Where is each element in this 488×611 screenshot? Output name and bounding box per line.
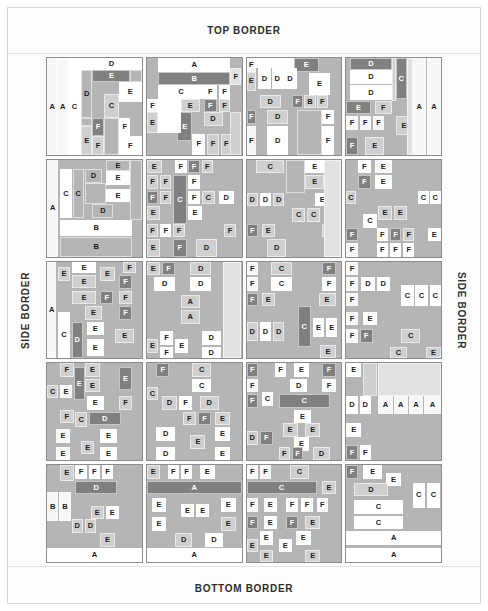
mosaic-cell-f: F — [160, 347, 173, 359]
mosaic-cell-blank — [104, 118, 119, 155]
mosaic-cell-f: F — [346, 116, 357, 130]
mosaic-cell-label: F — [192, 163, 197, 171]
mosaic-cell-label: C — [279, 484, 284, 492]
mosaic-cell-label: F — [150, 194, 155, 202]
mosaic-cell-label: E — [123, 375, 128, 383]
mosaic-cell-f: F — [204, 85, 217, 99]
mosaic-cell-f: F — [175, 160, 186, 174]
mosaic-cell-c: C — [271, 277, 292, 291]
mosaic-cell-label: A — [431, 103, 436, 111]
mosaic-cell-c: C — [396, 58, 407, 99]
mosaic-cell-d: D — [258, 68, 271, 89]
mosaic-cell-f: F — [147, 191, 158, 205]
mosaic-cell-label: E — [329, 324, 334, 332]
mosaic-cell-f: F — [375, 101, 392, 115]
mosaic-cell-label: E — [351, 366, 356, 374]
mosaic-cell-e: E — [346, 101, 371, 115]
mosaic-cell-label: D — [204, 244, 209, 252]
mosaic-cell-f: F — [247, 516, 258, 530]
mosaic-cell-f: F — [75, 465, 86, 479]
mosaic-cell-f: F — [360, 329, 373, 343]
mosaic-cell-label: F — [150, 102, 155, 110]
mosaic-cell-label: F — [164, 349, 169, 357]
mosaic-panel: FFCCEFEFFFFEFEEEEEEE — [246, 464, 343, 563]
mosaic-cell-label: F — [163, 227, 168, 235]
mosaic-cell-label: E — [93, 344, 98, 352]
bottom-border-strip: BOTTOM BORDER — [8, 566, 480, 610]
mosaic-cell-blank — [297, 110, 323, 155]
mosaic-cell-label: F — [123, 309, 128, 317]
mosaic-cell-label: F — [150, 227, 155, 235]
mosaic-cell-d: D — [272, 68, 282, 89]
mosaic-cell-label: E — [266, 227, 271, 235]
mosaic-cell-c: C — [298, 306, 311, 347]
mosaic-cell-label: F — [250, 501, 255, 509]
mosaic-cell-f: F — [317, 95, 328, 109]
mosaic-cell-label: F — [326, 113, 331, 121]
mosaic-cell-label: F — [178, 244, 183, 252]
mosaic-cell-label: F — [350, 315, 355, 323]
mosaic-cell-f: F — [188, 160, 199, 174]
screenshot-root: TOP BORDER SIDE BORDER SIDE BORDER BOTTO… — [0, 0, 488, 611]
mosaic-cell-c: C — [262, 392, 273, 406]
mosaic-cell-blank — [324, 160, 341, 257]
mosaic-cell-label: F — [222, 102, 227, 110]
mosaic-cell-label: E — [268, 501, 273, 509]
mosaic-cell-label: D — [163, 450, 168, 458]
mosaic-cell-d: D — [267, 239, 286, 256]
mosaic-cell-e: E — [119, 82, 142, 101]
mosaic-cell-f: F — [102, 465, 113, 479]
mosaic-cell-label: E — [264, 552, 269, 560]
mosaic-cell-label: C — [302, 397, 307, 405]
mosaic-cell-label: E — [326, 484, 331, 492]
mosaic-panel: EFFEAEEEEEEDDA — [146, 464, 243, 563]
mosaic-cell-d: D — [81, 58, 142, 70]
mosaic-cell-e: E — [221, 498, 236, 512]
mosaic-cell-e: E — [92, 70, 130, 83]
mosaic-cell-label: E — [109, 72, 114, 80]
mosaic-cell-label: F — [363, 119, 368, 127]
mosaic-cell-label: F — [278, 366, 283, 374]
mosaic-cell-label: F — [250, 468, 255, 476]
mosaic-cell-label: C — [267, 163, 272, 171]
mosaic-cell-label: E — [81, 294, 86, 302]
mosaic-cell-label: E — [220, 415, 225, 423]
mosaic-cell-label: C — [206, 194, 211, 202]
mosaic-cell-label: D — [210, 115, 215, 123]
mosaic-cell-label: F — [96, 142, 101, 150]
mosaic-cell-f: F — [156, 363, 169, 377]
mosaic-cell-label: C — [348, 194, 353, 202]
mosaic-cell-label: E — [300, 413, 305, 421]
mosaic-cell-label: F — [183, 399, 188, 407]
mosaic-cell-d: D — [219, 191, 234, 205]
mosaic-cell-d: D — [85, 169, 102, 183]
mosaic-cell-d: D — [354, 483, 388, 497]
mosaic-cell-f: F — [286, 516, 297, 530]
mosaic-cell-label: E — [381, 163, 386, 171]
mosaic-cell-f: F — [160, 331, 173, 345]
mosaic-cell-label: F — [327, 280, 332, 288]
mosaic-cell-c: C — [158, 85, 203, 99]
mosaic-cell-label: F — [295, 98, 300, 106]
mosaic-cell-e: E — [386, 473, 401, 487]
mosaic-cell-label: C — [311, 211, 316, 219]
mosaic-cell-label: D — [349, 401, 354, 409]
mosaic-cell-b: B — [158, 72, 230, 86]
mosaic-cell-label: E — [226, 501, 231, 509]
mosaic-cell-label: D — [362, 401, 367, 409]
mosaic-cell-d: D — [267, 126, 288, 155]
mosaic-cell-label: D — [368, 486, 373, 494]
mosaic-cell-label: D — [263, 328, 268, 336]
mosaic-cell-a: A — [427, 58, 441, 155]
mosaic-cell-label: E — [77, 380, 82, 388]
mosaic-cell-label: E — [200, 507, 205, 515]
mosaic-cell-label: D — [380, 280, 385, 288]
mosaic-cell-f: F — [322, 126, 333, 155]
mosaic-cell-label: E — [151, 468, 156, 476]
mosaic-cell-d: D — [196, 239, 217, 256]
mosaic-cell-c: C — [354, 516, 403, 530]
mosaic-cell-label: F — [249, 61, 254, 69]
mosaic-cell-e: E — [262, 293, 275, 307]
mosaic-cell-label: D — [208, 349, 213, 357]
mosaic-cell-label: F — [364, 332, 369, 340]
